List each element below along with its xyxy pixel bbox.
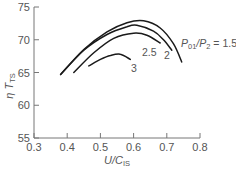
curve-label-2: 2 <box>164 49 170 61</box>
x-axis-title: U/CIS <box>104 154 130 168</box>
curve-3 <box>89 54 131 66</box>
y-tick-label: 70 <box>18 34 30 46</box>
x-tick-label: 0.3 <box>26 141 41 153</box>
y-tick-label: 60 <box>18 99 30 111</box>
curve-label-3: 3 <box>131 62 137 74</box>
y-tick-label: 65 <box>18 67 30 79</box>
curves-group <box>61 20 182 74</box>
x-tick-label: 0.6 <box>126 141 141 153</box>
x-tick-label: 0.7 <box>159 141 174 153</box>
y-tick-label: 75 <box>18 1 30 13</box>
x-tick-label: 0.8 <box>192 141 207 153</box>
x-ticks: 0.30.40.50.60.70.8 <box>26 133 207 153</box>
curve-label-2-5: 2.5 <box>142 46 157 58</box>
y-axis-title: η TTS <box>3 73 17 98</box>
curve-label-legend: P01/P2 = 1.5 <box>181 37 236 51</box>
y-ticks: 5560657075 <box>18 1 39 144</box>
x-tick-label: 0.4 <box>60 141 75 153</box>
efficiency-chart: 5560657075 0.30.40.50.60.70.8 P01/P2 = 1… <box>0 0 236 170</box>
x-tick-label: 0.5 <box>93 141 108 153</box>
